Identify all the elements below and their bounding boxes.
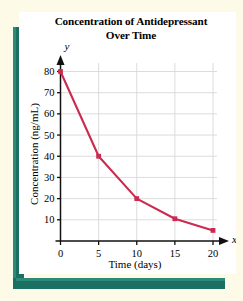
x-axis-symbol: x <box>231 233 236 245</box>
y-tick-label-10: 10 <box>44 214 55 225</box>
y-tick-label-70: 70 <box>44 87 55 98</box>
y-tick-label-20: 20 <box>44 193 55 204</box>
y-tick-label-80: 80 <box>44 66 55 77</box>
data-point-0-80 <box>58 69 63 74</box>
x-tick-label-0: 0 <box>58 248 63 259</box>
y-tick-label-40: 40 <box>44 151 55 162</box>
y-tick-label-60: 60 <box>44 108 55 119</box>
data-point-15-10.5 <box>172 216 177 221</box>
gridlines-vertical <box>99 63 213 241</box>
x-tick-label-15: 15 <box>170 248 181 259</box>
line-chart-plot: 1020304050607080 05101520 yx <box>19 12 236 274</box>
y-axis-arrowhead <box>57 55 65 65</box>
y-axis-tick-labels: 1020304050607080 <box>44 66 55 225</box>
x-axis-arrowhead <box>219 237 229 245</box>
decorative-frame-bottom-highlight <box>16 278 225 281</box>
data-point-10-20 <box>134 196 139 201</box>
y-tick-label-30: 30 <box>44 172 55 183</box>
x-tick-label-10: 10 <box>132 248 143 259</box>
y-axis-symbol: y <box>64 40 70 52</box>
x-tick-label-20: 20 <box>208 248 219 259</box>
data-point-5-40 <box>96 154 101 159</box>
x-tick-label-5: 5 <box>96 248 101 259</box>
data-point-20-5 <box>211 228 216 233</box>
axis-lines <box>56 55 230 245</box>
x-axis-tick-labels: 05101520 <box>58 248 218 259</box>
axis-variable-symbols: yx <box>64 40 237 245</box>
y-tick-label-50: 50 <box>44 130 55 141</box>
decorative-frame-left-highlight <box>13 27 16 278</box>
